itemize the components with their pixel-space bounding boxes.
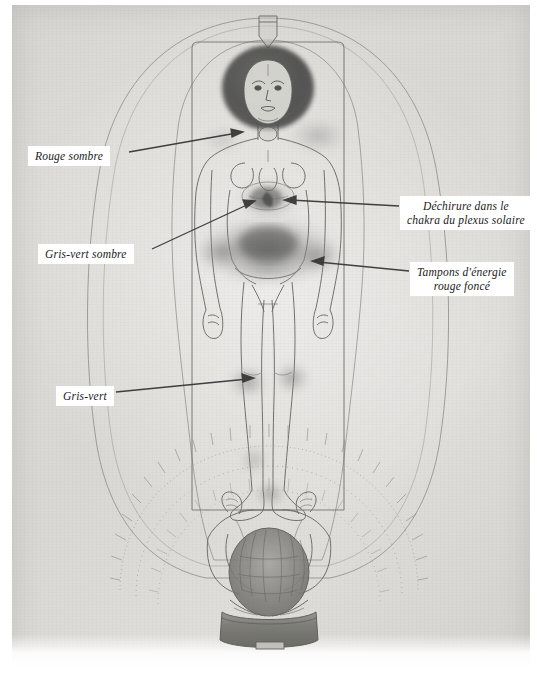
callout-gris-vert: Gris-vert	[56, 386, 114, 406]
callout-rouge-sombre: Rouge sombre	[28, 146, 110, 166]
callout-line: Tampons d'énergie	[417, 265, 507, 279]
callout-dechirure-plexus-solaire: Déchirure dans le chakra du plexus solai…	[400, 196, 532, 230]
callout-line: rouge foncé	[417, 279, 507, 293]
aura-illustration	[0, 0, 537, 688]
callout-line: Déchirure dans le	[407, 199, 525, 213]
callout-gris-vert-sombre: Gris-vert sombre	[38, 244, 134, 264]
stool	[220, 612, 318, 649]
callout-line: Gris-vert	[63, 389, 107, 403]
callout-line: Rouge sombre	[35, 149, 103, 163]
callout-line: chakra du plexus solaire	[407, 213, 525, 227]
crown-chakra-funnel	[259, 16, 277, 48]
throat-chakra	[259, 127, 277, 141]
callout-line: Gris-vert sombre	[45, 247, 127, 261]
callout-tampons-energie: Tampons d'énergie rouge foncé	[410, 262, 514, 296]
scanned-page: Rouge sombre Gris-vert sombre Gris-vert …	[0, 0, 537, 688]
